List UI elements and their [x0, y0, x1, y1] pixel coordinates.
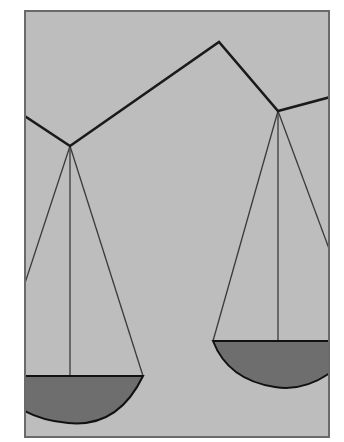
balance-scale-illustration [0, 0, 344, 442]
